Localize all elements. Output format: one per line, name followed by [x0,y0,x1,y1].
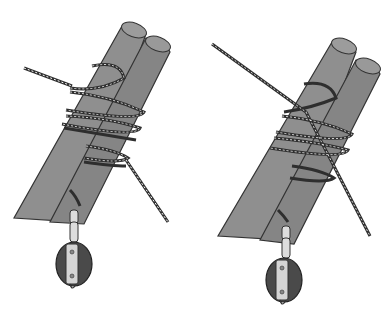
lashing-illustration-left [0,0,196,317]
illustration-panel-left [0,0,196,317]
chain-link [282,226,290,258]
pulley-icon [56,242,92,288]
pulley-icon [266,258,302,304]
illustration-panel-right [196,0,392,317]
lashing-illustration-right [196,0,392,317]
chain-link [70,210,78,242]
